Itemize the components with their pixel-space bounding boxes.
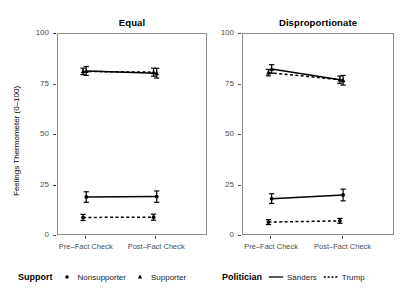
legend-item-nonsupporter[interactable]: Nonsupporter bbox=[59, 272, 126, 282]
series-line bbox=[272, 195, 343, 199]
legend-support-title: Support bbox=[18, 272, 53, 282]
circle-marker-icon bbox=[270, 197, 274, 201]
series-supporter-trump bbox=[266, 69, 343, 83]
circle-marker-icon bbox=[152, 215, 156, 219]
series-nonsupporter-sanders bbox=[84, 191, 160, 202]
circle-marker-icon bbox=[81, 216, 85, 220]
series-line bbox=[268, 221, 339, 222]
legend-item-trump[interactable]: Trump bbox=[323, 272, 365, 282]
legend-label-sanders: Sanders bbox=[287, 273, 317, 282]
triangle-marker-icon bbox=[132, 272, 148, 282]
circle-marker-icon bbox=[267, 220, 271, 224]
legend-label-supporter: Supporter bbox=[151, 273, 186, 282]
circle-marker-icon bbox=[338, 219, 342, 223]
circle-marker-icon bbox=[84, 195, 88, 199]
legend-label-trump: Trump bbox=[342, 273, 365, 282]
circle-marker-icon bbox=[59, 272, 75, 282]
circle-marker-icon bbox=[341, 193, 345, 197]
chart-root: Feelings Thermometer (0–100) Equal Dispr… bbox=[0, 0, 417, 296]
legend-item-sanders[interactable]: Sanders bbox=[268, 272, 317, 282]
series-supporter-trump bbox=[80, 68, 156, 76]
series-line bbox=[272, 69, 343, 80]
legend-politician-title: Politician bbox=[222, 272, 262, 282]
data-series-layer bbox=[0, 0, 417, 296]
series-nonsupporter-sanders bbox=[269, 189, 346, 203]
legend-support: Support Nonsupporter Supporter bbox=[18, 272, 186, 282]
dashed-line-icon bbox=[323, 272, 339, 282]
solid-line-icon bbox=[268, 272, 284, 282]
series-nonsupporter-trump bbox=[266, 218, 343, 224]
legend-politician: Politician Sanders Trump bbox=[222, 272, 365, 282]
series-nonsupporter-trump bbox=[80, 214, 156, 220]
legend-label-nonsupporter: Nonsupporter bbox=[78, 273, 126, 282]
circle-marker-icon bbox=[155, 195, 159, 199]
series-supporter-sanders bbox=[269, 65, 346, 85]
legend-item-supporter[interactable]: Supporter bbox=[132, 272, 186, 282]
triangle-marker-icon bbox=[151, 70, 156, 74]
